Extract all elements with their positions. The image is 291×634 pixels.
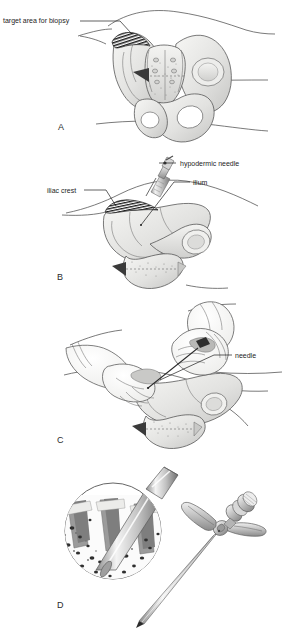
ilium-label-text: ilium [193,179,208,186]
panel-a-letter: A [58,122,64,132]
panel-d-letter: D [57,600,64,610]
bone-marrow-biopsy-figure: target area for biopsy A [0,0,291,634]
needle-entry-point [147,387,149,389]
target-area-label-text: target area for biopsy [3,17,70,25]
figure-canvas: target area for biopsy A [0,0,291,634]
panel-c-letter: C [57,435,64,445]
iliac-crest-label-text: iliac crest [47,187,76,194]
left-acetabulum-inner [198,63,218,81]
hypodermic-needle-label-text: hypodermic needle [180,160,239,168]
panel-b-letter: B [57,272,63,282]
ilium-leader-dot [140,224,142,226]
trephine-hub-detail [218,530,220,532]
needle-label-text: needle [235,352,256,359]
obturator-foramen-right [141,112,159,128]
